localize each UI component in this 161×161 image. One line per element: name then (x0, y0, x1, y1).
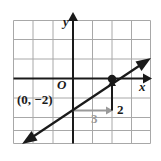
y-axis-label: y (63, 15, 69, 28)
y-intercept-label: (0, −2) (17, 93, 53, 106)
grid-lines (14, 21, 151, 144)
run-label: 3 (91, 112, 98, 125)
marked-point-3-0 (108, 75, 116, 83)
coordinate-graph-figure: y x O (0, −2) 2 3 (0, 0, 161, 161)
graph-canvas (0, 0, 161, 161)
rise-label: 2 (117, 103, 124, 116)
x-axis-label: x (139, 80, 146, 93)
origin-label: O (57, 78, 66, 91)
